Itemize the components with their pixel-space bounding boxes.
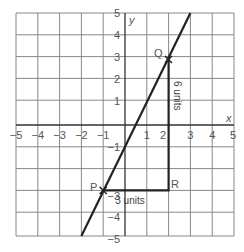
x-axis-label: x (225, 112, 232, 124)
coordinate-graph: −5 −4 −3 −2 −1 1 2 3 4 5 5 4 3 2 1 −1 −3… (0, 0, 244, 252)
point-q-label: Q (154, 47, 163, 59)
x-tick: −3 (53, 129, 66, 141)
x-tick: 1 (144, 129, 150, 141)
y-tick: −1 (107, 141, 120, 153)
y-tick: −4 (107, 211, 120, 223)
y-tick-labels: 5 4 3 2 1 −1 −3 −4 −5 (107, 7, 120, 245)
x-tick: 5 (230, 129, 236, 141)
y-tick: −5 (107, 233, 120, 245)
y-tick: 1 (114, 95, 120, 107)
x-tick: −1 (97, 129, 110, 141)
x-tick-labels: −5 −4 −3 −2 −1 1 2 3 4 5 (10, 129, 236, 141)
x-tick: 2 (160, 129, 166, 141)
y-tick: 5 (114, 7, 120, 19)
point-r-label: R (171, 178, 179, 190)
run-annotation: 3 units (115, 195, 144, 206)
x-tick: −2 (75, 129, 88, 141)
y-tick: 4 (114, 29, 120, 41)
x-tick: −5 (10, 129, 23, 141)
rise-annotation: 6 units (172, 81, 183, 110)
x-tick: −4 (32, 129, 45, 141)
x-tick: 3 (187, 129, 193, 141)
y-axis-label: y (128, 14, 136, 26)
y-tick: 3 (114, 51, 120, 63)
point-p-label: P (90, 181, 97, 193)
y-tick: 2 (114, 73, 120, 85)
x-tick: 4 (209, 129, 215, 141)
